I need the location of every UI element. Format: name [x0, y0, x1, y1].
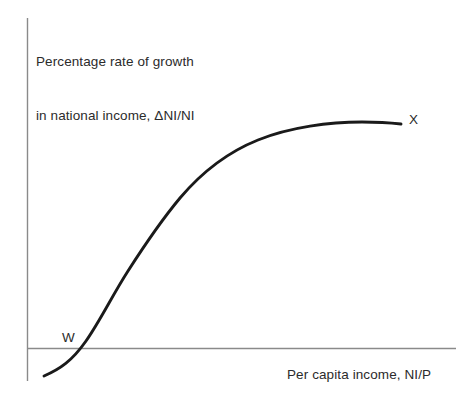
- growth-curve-figure: Percentage rate of growth in national in…: [0, 0, 467, 401]
- x-axis-label: Per capita income, NI/P: [287, 366, 431, 384]
- y-axis-label: Percentage rate of growth in national in…: [36, 17, 195, 161]
- point-label-w: W: [62, 330, 75, 345]
- point-label-x: X: [409, 112, 418, 127]
- y-axis-label-line-2: in national income, ΔNI/NI: [36, 107, 195, 125]
- y-axis-label-line-1: Percentage rate of growth: [36, 53, 195, 71]
